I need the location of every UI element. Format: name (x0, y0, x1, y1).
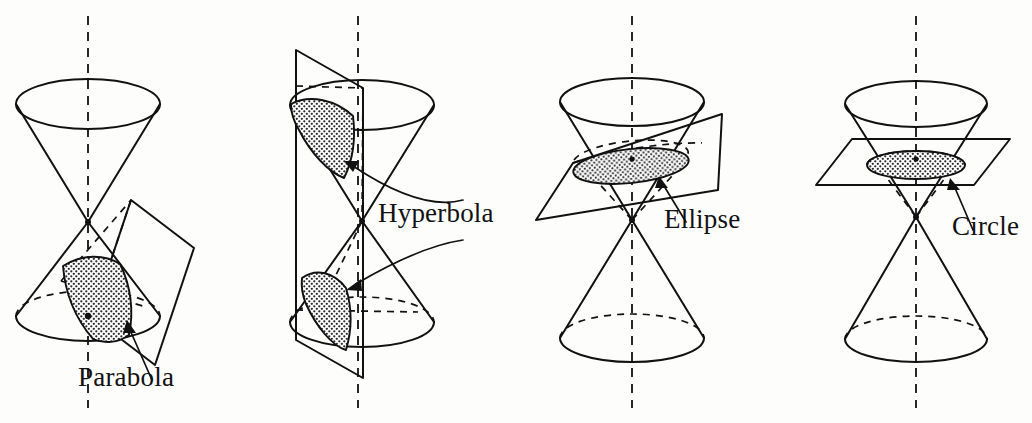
lower-cone-right-slant (632, 220, 704, 338)
hyperbola-upper-leader (353, 166, 463, 202)
panel-hyperbola: Hyperbola (258, 0, 516, 423)
parabola-label: Parabola (78, 362, 174, 392)
upper-cone-right-slant (88, 104, 160, 222)
plane-hidden-edge-top (296, 86, 363, 88)
section-center-point (913, 156, 918, 161)
ellipse-label: Ellipse (664, 204, 740, 234)
cone-apex-point (359, 218, 365, 224)
panel-circle: Circle (774, 0, 1032, 423)
section-center-point (629, 156, 634, 161)
conic-sections-figure: Parabola (0, 0, 1032, 423)
upper-cone-left-slant (16, 104, 88, 222)
cone-apex-point (629, 217, 635, 223)
section-center-point (85, 313, 91, 319)
panel-ellipse: Ellipse (516, 0, 774, 423)
hyperbola-upper-branch (291, 99, 354, 178)
parabola-section (63, 257, 131, 342)
hyperbola-diagram: Hyperbola (258, 0, 516, 423)
cone-apex-point (913, 214, 919, 220)
lower-cone-left-slant (845, 217, 916, 339)
hyperbola-lower-arrowhead (346, 279, 362, 291)
hyperbola-lower-leader (356, 240, 463, 284)
circle-diagram: Circle (774, 0, 1032, 423)
lower-cone-right-slant (362, 221, 434, 322)
parabola-diagram: Parabola (0, 0, 258, 423)
hyperbola-label: Hyperbola (378, 198, 494, 228)
cone-apex-point (85, 219, 91, 225)
ellipse-diagram: Ellipse (516, 0, 774, 423)
panel-parabola: Parabola (0, 0, 258, 423)
circle-label: Circle (952, 211, 1019, 241)
lower-cone-left-slant (560, 220, 632, 338)
